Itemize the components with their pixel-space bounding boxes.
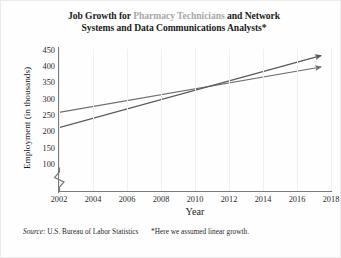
grid-line	[331, 49, 332, 191]
x-axis-line	[58, 191, 332, 192]
y-tick-label: 300	[29, 96, 55, 104]
chart-title-line-1: Job Growth for Pharmacy Technicians and …	[29, 10, 319, 22]
x-tick-label: 2012	[212, 196, 246, 204]
y-tick-label: 250	[29, 112, 55, 120]
x-tick-label: 2018	[314, 196, 341, 204]
y-axis-tick-labels: 450 400 350 300 250 200 150 100	[27, 1, 55, 258]
x-tick-label: 2010	[178, 196, 212, 204]
y-tick-label: 350	[29, 79, 55, 87]
chart-title-post: and Network	[225, 10, 280, 21]
x-tick-label: 2014	[246, 196, 280, 204]
footnote-source-text: U.S. Bureau of Labor Statistics	[47, 227, 138, 236]
chart-title-pre: Job Growth for	[68, 10, 133, 21]
chart-footnote: Source: U.S. Bureau of Labor Statistics …	[23, 227, 323, 236]
x-tick-label: 2016	[280, 196, 314, 204]
grid-line	[263, 49, 264, 191]
footnote-source-label: Source:	[23, 227, 45, 236]
chart-title-line-2: Systems and Data Communications Analysts…	[29, 22, 319, 34]
grid-line	[161, 49, 162, 191]
grid-line	[127, 49, 128, 191]
grid-line	[297, 49, 298, 191]
x-axis-title: Year	[59, 206, 331, 217]
y-tick-label: 150	[29, 145, 55, 153]
grid-line	[229, 49, 230, 191]
x-tick-label: 2004	[76, 196, 110, 204]
y-tick-label: 100	[29, 161, 55, 169]
grid-line	[93, 49, 94, 191]
chart-title: Job Growth for Pharmacy Technicians and …	[29, 10, 319, 35]
x-tick-label: 2002	[42, 196, 76, 204]
plot-area	[59, 49, 331, 191]
footnote-note: *Here we assumed linear growth.	[151, 227, 249, 236]
y-axis-break-icon	[53, 167, 67, 191]
grid-lines	[59, 49, 331, 191]
x-tick-label: 2006	[110, 196, 144, 204]
y-tick-label: 400	[29, 63, 55, 71]
chart-title-highlight: Pharmacy Technicians	[133, 10, 224, 21]
grid-line	[195, 49, 196, 191]
y-tick-label: 450	[29, 47, 55, 55]
y-tick-label: 200	[29, 128, 55, 136]
x-tick-label: 2008	[144, 196, 178, 204]
chart-figure: Job Growth for Pharmacy Technicians and …	[0, 0, 341, 258]
